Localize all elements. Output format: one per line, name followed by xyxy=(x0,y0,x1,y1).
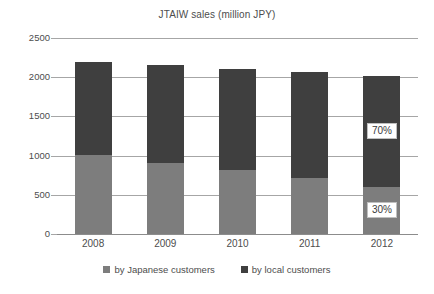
y-axis-label: 2000 xyxy=(6,72,50,82)
bar-segment[interactable] xyxy=(75,155,112,234)
y-axis-tick xyxy=(51,116,57,117)
y-axis-tick xyxy=(51,195,57,196)
bar-segment[interactable] xyxy=(75,62,112,155)
y-axis-label: 2500 xyxy=(6,33,50,43)
bar-group[interactable] xyxy=(75,38,112,234)
x-axis-label: 2011 xyxy=(280,238,340,249)
bar-segment[interactable] xyxy=(291,178,328,234)
bar-segment[interactable] xyxy=(147,163,184,234)
legend-label: by local customers xyxy=(252,264,331,275)
x-axis-label: 2008 xyxy=(63,238,123,249)
chart-title: JTAIW sales (million JPY) xyxy=(0,9,434,20)
legend-label: by Japanese customers xyxy=(114,264,214,275)
y-axis: 05001000150020002500 xyxy=(0,38,50,234)
y-axis-tick xyxy=(51,234,57,235)
data-label: 70% xyxy=(367,123,397,139)
y-axis-label: 0 xyxy=(6,229,50,239)
bar-segment[interactable] xyxy=(147,65,184,162)
plot-area: 70%30% xyxy=(57,38,418,234)
x-axis-label: 2009 xyxy=(135,238,195,249)
legend-entry[interactable]: by local customers xyxy=(241,264,331,275)
bar-segment[interactable] xyxy=(219,170,256,234)
gridline xyxy=(57,234,418,235)
y-axis-tick xyxy=(51,38,57,39)
data-label: 30% xyxy=(367,202,397,218)
y-axis-tick xyxy=(51,156,57,157)
legend-swatch-icon xyxy=(241,266,248,273)
chart-container: JTAIW sales (million JPY) 05001000150020… xyxy=(0,0,434,294)
x-axis-label: 2012 xyxy=(352,238,412,249)
bar-group[interactable] xyxy=(147,38,184,234)
bar-group[interactable] xyxy=(219,38,256,234)
x-axis-label: 2010 xyxy=(208,238,268,249)
y-axis-label: 500 xyxy=(6,190,50,200)
y-axis-label: 1000 xyxy=(6,151,50,161)
bar-segment[interactable] xyxy=(219,69,256,171)
x-axis: 20082009201020112012 xyxy=(57,238,418,256)
chart-legend: by Japanese customersby local customers xyxy=(0,264,434,275)
bar-group[interactable] xyxy=(291,38,328,234)
y-axis-tick xyxy=(51,77,57,78)
bar-segment[interactable] xyxy=(291,72,328,177)
legend-swatch-icon xyxy=(103,266,110,273)
y-axis-label: 1500 xyxy=(6,112,50,122)
legend-entry[interactable]: by Japanese customers xyxy=(103,264,214,275)
